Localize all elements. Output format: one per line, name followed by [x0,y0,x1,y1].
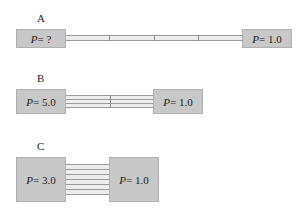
tube [66,189,110,195]
tube-segment-divider [109,35,110,41]
pressure-value: = ? [37,33,51,45]
left-reservoir: P = 5.0 [16,89,66,114]
pressure-value: = 1.0 [259,33,282,45]
pressure-var: P [26,174,33,186]
right-reservoir: P = 1.0 [242,29,292,48]
pressure-value: = 1.0 [126,174,149,186]
right-reservoir: P = 1.0 [153,89,203,114]
pressure-var: P [26,96,33,108]
pressure-var: P [119,174,126,186]
tube-segment-divider [198,35,199,41]
pressure-value: = 5.0 [33,96,56,108]
pressure-var: P [31,33,38,45]
left-reservoir: P = 3.0 [16,157,66,202]
left-reservoir: P = ? [16,29,66,48]
tube-segment-divider [154,35,155,41]
panel-label: A [37,12,45,24]
pressure-var: P [163,96,170,108]
pressure-value: = 1.0 [170,96,193,108]
tube-segment-divider [110,95,111,108]
panel-label: B [37,72,44,84]
pressure-value: = 3.0 [33,174,56,186]
pressure-var: P [252,33,259,45]
panel-label: C [37,140,44,152]
right-reservoir: P = 1.0 [109,157,159,202]
